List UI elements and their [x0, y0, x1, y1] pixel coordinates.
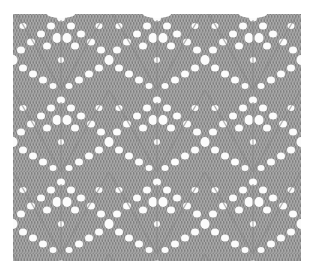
knitted-lace-swatch [13, 14, 301, 261]
lace-pattern-graphic [13, 14, 301, 261]
